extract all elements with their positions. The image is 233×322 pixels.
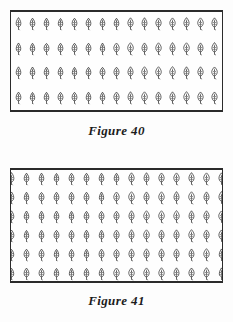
- tree-icon: [27, 66, 38, 80]
- tree-icon: [41, 66, 52, 80]
- tree-icon: [36, 191, 47, 205]
- page: Figure 40 Figure 41: [0, 0, 233, 322]
- tree-icon: [111, 42, 122, 56]
- tree-icon: [69, 17, 80, 31]
- tree-icon: [181, 66, 192, 80]
- tree-icon: [111, 248, 122, 262]
- tree-icon: [201, 172, 212, 186]
- tree-icon: [51, 191, 62, 205]
- tree-icon: [216, 229, 223, 243]
- tree-icon: [181, 42, 192, 56]
- tree-icon: [36, 172, 47, 186]
- tree-icon: [66, 172, 77, 186]
- tree-icon: [186, 248, 197, 262]
- tree-icon: [156, 267, 167, 281]
- tree-icon: [13, 91, 24, 105]
- tree-icon: [51, 248, 62, 262]
- tree-icon: [21, 172, 32, 186]
- tree-icon: [81, 267, 92, 281]
- tree-icon: [111, 17, 122, 31]
- tree-icon: [27, 42, 38, 56]
- tree-icon: [171, 267, 182, 281]
- tree-icon: [81, 229, 92, 243]
- tree-icon: [125, 66, 136, 80]
- tree-icon: [201, 191, 212, 205]
- tree-icon: [171, 229, 182, 243]
- tree-icon: [13, 66, 24, 80]
- tree-icon: [126, 229, 137, 243]
- tree-icon: [201, 248, 212, 262]
- tree-icon: [81, 210, 92, 224]
- figure-41: Figure 41: [0, 168, 233, 309]
- tree-icon: [126, 267, 137, 281]
- tree-icon: [195, 91, 206, 105]
- tree-icon: [153, 66, 164, 80]
- tree-icon: [111, 91, 122, 105]
- tree-icon: [81, 191, 92, 205]
- tree-icon: [21, 229, 32, 243]
- tree-icon: [125, 17, 136, 31]
- tree-icon: [209, 66, 220, 80]
- figure-40-tree-grid: [11, 12, 222, 110]
- tree-icon: [81, 248, 92, 262]
- tree-icon: [96, 229, 107, 243]
- tree-icon: [195, 42, 206, 56]
- tree-icon: [171, 248, 182, 262]
- tree-icon: [126, 172, 137, 186]
- tree-icon: [167, 66, 178, 80]
- tree-icon: [69, 91, 80, 105]
- tree-icon: [141, 248, 152, 262]
- tree-icon: [156, 210, 167, 224]
- tree-icon: [13, 42, 24, 56]
- tree-icon: [153, 91, 164, 105]
- tree-icon: [139, 42, 150, 56]
- tree-icon: [21, 210, 32, 224]
- tree-icon: [156, 229, 167, 243]
- tree-icon: [66, 248, 77, 262]
- tree-icon: [66, 229, 77, 243]
- tree-icon: [66, 267, 77, 281]
- tree-icon: [21, 267, 32, 281]
- tree-icon: [201, 267, 212, 281]
- tree-icon: [167, 17, 178, 31]
- tree-icon: [125, 42, 136, 56]
- tree-icon: [141, 267, 152, 281]
- tree-icon: [97, 17, 108, 31]
- tree-icon: [111, 172, 122, 186]
- tree-icon: [96, 191, 107, 205]
- tree-icon: [96, 210, 107, 224]
- tree-icon: [186, 210, 197, 224]
- tree-icon: [111, 229, 122, 243]
- tree-icon: [69, 42, 80, 56]
- tree-icon: [51, 172, 62, 186]
- tree-icon: [216, 210, 223, 224]
- tree-icon: [55, 42, 66, 56]
- tree-icon: [10, 191, 17, 205]
- tree-icon: [69, 66, 80, 80]
- tree-icon: [186, 191, 197, 205]
- tree-icon: [126, 191, 137, 205]
- tree-icon: [83, 17, 94, 31]
- tree-icon: [139, 66, 150, 80]
- tree-icon: [153, 42, 164, 56]
- tree-icon: [21, 248, 32, 262]
- tree-icon: [181, 17, 192, 31]
- tree-icon: [216, 191, 223, 205]
- tree-icon: [96, 248, 107, 262]
- tree-icon: [21, 191, 32, 205]
- tree-icon: [216, 267, 223, 281]
- tree-icon: [96, 172, 107, 186]
- tree-icon: [83, 66, 94, 80]
- tree-icon: [81, 172, 92, 186]
- figure-41-caption: Figure 41: [0, 293, 233, 309]
- tree-icon: [186, 229, 197, 243]
- tree-icon: [10, 172, 17, 186]
- tree-icon: [97, 42, 108, 56]
- tree-icon: [216, 172, 223, 186]
- tree-icon: [51, 267, 62, 281]
- tree-icon: [186, 267, 197, 281]
- tree-icon: [139, 91, 150, 105]
- tree-icon: [171, 172, 182, 186]
- figure-40-caption: Figure 40: [0, 123, 233, 139]
- tree-icon: [141, 229, 152, 243]
